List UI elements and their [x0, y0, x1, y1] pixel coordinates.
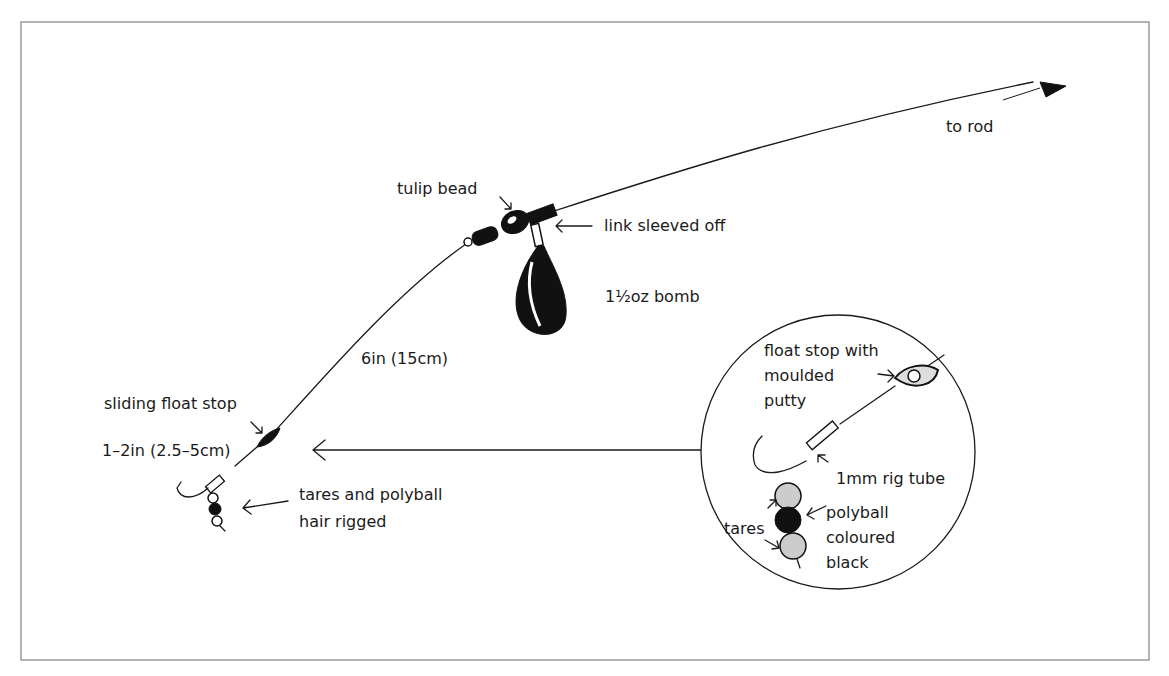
inset-label-float-stop-3: putty [764, 391, 806, 410]
inset-label-float-stop-2: moulded [764, 366, 834, 385]
label-link-sleeved-off: link sleeved off [604, 216, 726, 235]
tulip-bead-arrow [500, 197, 511, 209]
label-bomb: 1½oz bomb [605, 287, 700, 306]
label-tulip-bead: tulip bead [397, 179, 478, 198]
to-rod-arrowhead-icon [1040, 82, 1066, 97]
swivel-and-tulip-bead [464, 204, 557, 247]
inset-pointer-arrow [313, 440, 703, 460]
bomb-lead [516, 223, 566, 334]
label-tares-polyball-1: tares and polyball [299, 485, 442, 504]
label-hooklength: 6in (15cm) [361, 349, 448, 368]
label-sliding-float-stop: sliding float stop [104, 394, 237, 413]
inset-label-polyball-1: polyball [826, 503, 889, 522]
hooklength-line [262, 244, 466, 443]
link-arrow [556, 220, 592, 232]
main-line [548, 82, 1066, 213]
inset-label-rig-tube: 1mm rig tube [836, 469, 945, 488]
float-stop-arrow [251, 422, 262, 433]
label-hair-length: 1–2in (2.5–5cm) [102, 441, 231, 460]
label-tares-polyball-2: hair rigged [299, 512, 386, 531]
inset-label-float-stop-1: float stop with [764, 341, 879, 360]
inset-label-polyball-2: coloured [826, 528, 895, 547]
tares-arrow [243, 500, 288, 514]
inset-label-polyball-3: black [826, 553, 869, 572]
rig-diagram: to rod tulip bead link sleeved off 1½oz … [0, 0, 1169, 676]
inset-label-tares: tares [724, 519, 764, 538]
label-to-rod: to rod [946, 117, 993, 136]
